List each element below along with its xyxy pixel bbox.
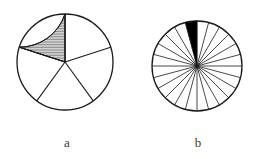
panel-label-b: b [195,135,202,150]
spokes-b [152,21,242,111]
panel-a: a [15,14,115,150]
panel-label-a: a [64,135,70,150]
fraction-circles-figure: a b [0,0,261,159]
figure-container: a b [0,0,261,159]
panel-b: b [152,21,242,150]
